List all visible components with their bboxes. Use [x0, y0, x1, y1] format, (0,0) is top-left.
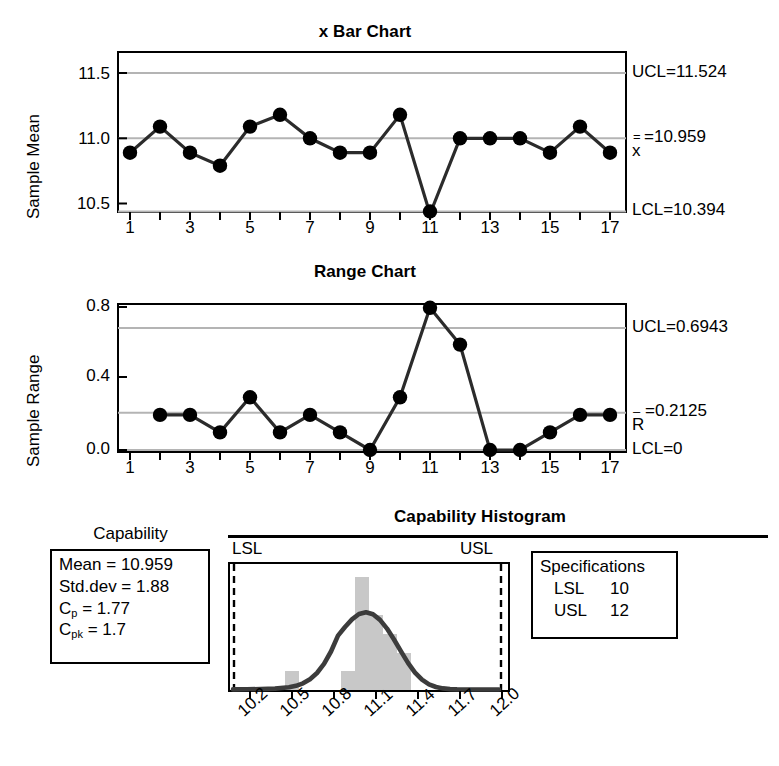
- spec-lsl-name: LSL: [540, 578, 596, 600]
- specifications-box: Specifications LSL 10 USL 12: [531, 551, 678, 639]
- spec-lsl-value: 10: [596, 578, 640, 600]
- specifications-row-usl: USL 12: [540, 600, 669, 622]
- spec-usl-value: 12: [596, 600, 640, 622]
- specifications-heading: Specifications: [540, 556, 669, 578]
- spec-usl-name: USL: [540, 600, 596, 622]
- specifications-row-lsl: LSL 10: [540, 578, 669, 600]
- capability-histogram-plot: [0, 0, 779, 766]
